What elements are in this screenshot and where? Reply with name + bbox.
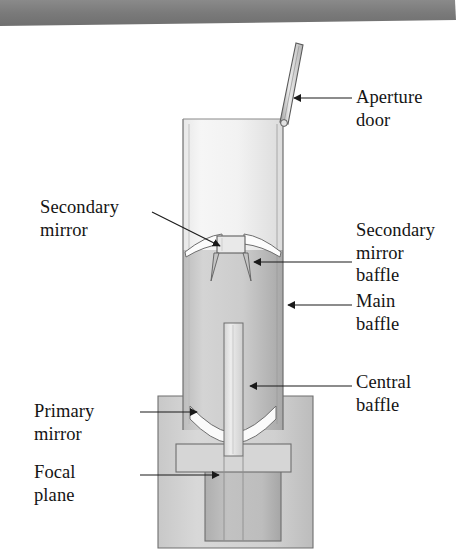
scan-banner <box>0 0 456 26</box>
label-secondary-mirror-baffle: Secondary mirror baffle <box>356 219 435 287</box>
label-main-baffle: Main baffle <box>356 290 399 335</box>
label-focal-plane: Focal plane <box>34 461 76 506</box>
label-aperture-door: Aperture door <box>356 86 423 131</box>
aperture-door <box>280 43 303 126</box>
central-baffle <box>224 323 243 456</box>
label-central-baffle: Central baffle <box>356 371 411 416</box>
label-primary-mirror: Primary mirror <box>34 400 94 445</box>
main-tube-upper <box>183 119 283 250</box>
telescope-diagram-figure: Aperture door Secondary mirror Secondary… <box>0 0 475 559</box>
label-secondary-mirror: Secondary mirror <box>40 196 119 241</box>
